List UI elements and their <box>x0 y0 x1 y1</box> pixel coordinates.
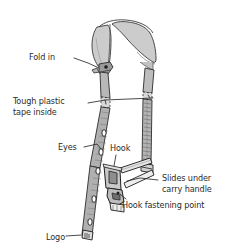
label-tough-plastic-line2: tape inside <box>13 107 57 117</box>
strap-eye-3 <box>96 168 100 175</box>
label-slides-under-carry-handle: Slides undercarry handle <box>162 173 212 194</box>
logo-patch-body <box>82 230 93 240</box>
strap-eye-4 <box>92 196 96 203</box>
right-strap-upper <box>143 68 154 93</box>
label-logo: Logo <box>46 232 65 243</box>
left-strap-upper <box>100 72 110 98</box>
hook-assembly-group <box>103 164 124 212</box>
carry-handle-bar-group <box>120 158 154 188</box>
left-strap-group <box>82 72 110 240</box>
leader-hook <box>114 155 116 166</box>
strap-assembly-diagram: Fold in Tough plastictape inside Eyes Ho… <box>0 0 249 250</box>
logo-patch <box>82 230 93 240</box>
leader-logo <box>66 235 82 236</box>
label-hook: Hook <box>110 143 130 154</box>
diagram-artwork <box>0 0 249 250</box>
strap-eye-5 <box>88 219 92 226</box>
left-strap-lower <box>90 107 110 168</box>
hook-housing-slot <box>109 171 117 184</box>
fold-in-clip-tab <box>92 68 99 73</box>
label-tough-plastic-tape-inside: Tough plastictape inside <box>13 96 65 117</box>
label-eyes: Eyes <box>58 142 77 153</box>
bag-right-lobe <box>112 22 156 63</box>
hook-fastening-point-marker <box>117 192 120 195</box>
label-hook-fastening-point: Hook fastening point <box>122 200 204 211</box>
right-strap-group <box>141 68 154 173</box>
label-slides-under-line2: carry handle <box>162 184 212 194</box>
strap-eye-1 <box>102 130 106 137</box>
strap-eye-2 <box>99 149 103 156</box>
bag-body-group <box>92 20 156 70</box>
label-slides-under-line1: Slides under <box>162 173 211 183</box>
label-tough-plastic-line1: Tough plastic <box>13 96 65 106</box>
label-fold-in: Fold in <box>29 52 55 63</box>
fold-in-clip-rivet <box>104 65 108 69</box>
